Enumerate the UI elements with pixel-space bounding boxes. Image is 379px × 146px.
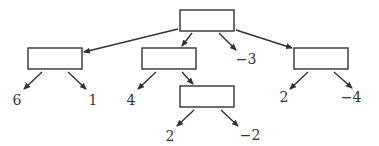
arrow-edge <box>236 30 292 48</box>
leaf-value: 6 <box>13 92 22 108</box>
tree-nodes <box>28 10 348 107</box>
arrow-edge <box>219 33 236 50</box>
node-box-left <box>28 48 82 69</box>
node-box-right <box>294 48 348 69</box>
node-box-mid <box>142 48 196 69</box>
leaf-value: −4 <box>341 89 362 105</box>
arrow-edge <box>138 72 156 89</box>
node-box-midchild <box>180 86 234 107</box>
arrow-edge <box>182 72 193 84</box>
tree-edges <box>24 29 352 126</box>
arrow-edge <box>24 72 42 89</box>
leaf-value: −2 <box>240 127 261 143</box>
arrow-edge <box>290 72 308 89</box>
leaf-value: −3 <box>236 51 257 67</box>
arrow-edge <box>221 110 238 126</box>
node-box-root <box>180 10 234 31</box>
leaf-value: 4 <box>127 92 136 108</box>
leaf-value: 2 <box>280 89 289 105</box>
arrow-edge <box>68 72 86 89</box>
arrow-edge <box>177 110 194 126</box>
tree-diagram <box>0 0 379 146</box>
leaf-value: 1 <box>89 92 98 108</box>
arrow-edge <box>334 72 352 88</box>
leaf-value: 2 <box>166 128 175 144</box>
arrow-edge <box>182 33 192 46</box>
